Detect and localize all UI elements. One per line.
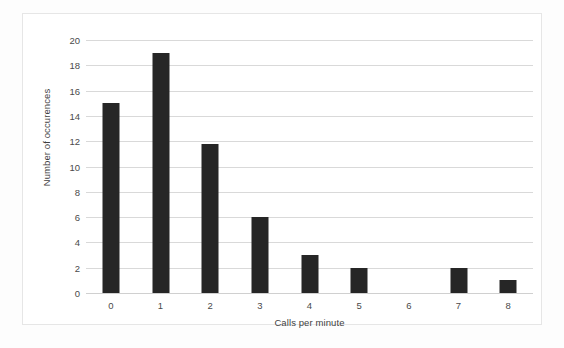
- bar: [500, 280, 517, 293]
- y-tick-label: 14: [69, 110, 80, 121]
- bar: [102, 103, 119, 293]
- x-tick-label: 0: [108, 300, 113, 311]
- y-tick-label: 18: [69, 60, 80, 71]
- y-tick-label: 16: [69, 85, 80, 96]
- bar: [301, 255, 318, 293]
- x-tick-label: 2: [208, 300, 213, 311]
- gridline: [86, 40, 533, 41]
- y-tick-label: 20: [69, 35, 80, 46]
- bar: [202, 144, 219, 293]
- y-tick-label: 0: [75, 288, 80, 299]
- y-axis-title: Number of occurences: [41, 53, 52, 223]
- x-tick-label: 7: [456, 300, 461, 311]
- x-tick-label: 6: [406, 300, 411, 311]
- bar: [450, 268, 467, 293]
- x-tick-label: 3: [257, 300, 262, 311]
- y-tick-label: 4: [75, 237, 80, 248]
- x-axis-title: Calls per minute: [86, 317, 533, 328]
- y-tick-label: 12: [69, 136, 80, 147]
- gridline: [86, 293, 533, 294]
- x-tick-label: 5: [357, 300, 362, 311]
- chart-image: Number of occurences 02468101214161820 0…: [0, 0, 564, 348]
- y-tick-label: 10: [69, 161, 80, 172]
- x-tick-label: 8: [506, 300, 511, 311]
- plot-area: 02468101214161820 012345678 Calls per mi…: [86, 40, 533, 293]
- x-tick-label: 4: [307, 300, 312, 311]
- bar: [351, 268, 368, 293]
- x-tick-label: 1: [158, 300, 163, 311]
- bar: [251, 217, 268, 293]
- bar: [152, 53, 169, 293]
- y-tick-label: 8: [75, 186, 80, 197]
- y-tick-label: 6: [75, 212, 80, 223]
- y-tick-label: 2: [75, 262, 80, 273]
- chart-frame: Number of occurences 02468101214161820 0…: [22, 13, 542, 325]
